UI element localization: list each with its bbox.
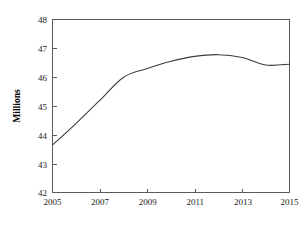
y-tick-label-47: 47 [38,44,48,54]
x-tick-label-2015: 2015 [281,197,300,207]
y-tick-labels: 48 47 46 45 44 43 42 [38,15,48,198]
y-tick-label-45: 45 [38,102,48,112]
chart-figure: 48 47 46 45 44 43 42 2005 2007 2009 2011… [0,0,305,225]
x-tick-label-2009: 2009 [139,197,158,207]
plot-background [52,19,290,193]
y-tick-label-48: 48 [38,15,48,25]
y-axis-title: Millions [12,89,22,123]
x-tick-labels: 2005 2007 2009 2011 2013 2015 [44,197,300,207]
x-tick-label-2011: 2011 [186,197,204,207]
y-tick-label-42: 42 [38,188,47,198]
x-tick-label-2007: 2007 [91,197,110,207]
y-tick-label-43: 43 [38,160,48,170]
line-chart: 48 47 46 45 44 43 42 2005 2007 2009 2011… [0,0,305,225]
x-tick-label-2013: 2013 [234,197,253,207]
y-tick-label-46: 46 [38,73,48,83]
x-tick-label-2005: 2005 [44,197,63,207]
y-tick-label-44: 44 [38,131,48,141]
